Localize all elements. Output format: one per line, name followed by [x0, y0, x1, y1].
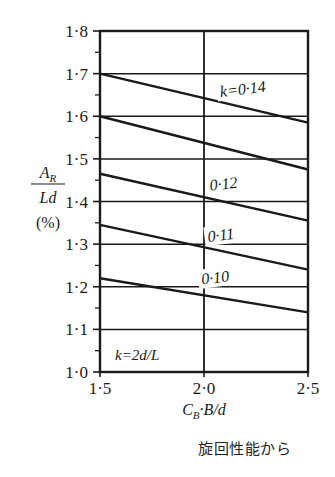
y-tick-label: 1·3	[65, 235, 88, 254]
y-axis-tick-labels: 1·01·11·21·31·41·51·61·71·8	[65, 22, 88, 382]
curve-label-k-0-12: 0·12	[209, 174, 239, 194]
turning-performance-chart: 1·01·11·21·31·41·51·61·71·8 1·52·02·5 k=…	[0, 0, 335, 477]
y-tick-label: 1·1	[65, 320, 88, 339]
x-tick-label: 1·5	[89, 379, 112, 398]
figure-caption: 旋回性能から	[198, 437, 291, 458]
y-tick-label: 1·4	[65, 193, 88, 212]
y-axis-title-numerator-subscript: R	[49, 172, 57, 184]
y-axis-title-numerator: A	[39, 164, 50, 181]
y-tick-label: 1·5	[65, 150, 88, 169]
x-tick-label: 2·5	[297, 379, 320, 398]
y-tick-label: 1·6	[65, 107, 88, 126]
y-axis-title-denominator: Ld	[39, 189, 58, 206]
svg-text:AR: AR	[39, 164, 57, 184]
figure-container: 1·01·11·21·31·41·51·61·71·8 1·52·02·5 k=…	[0, 0, 335, 477]
x-axis-title: CB·B/d	[182, 401, 227, 421]
y-tick-label: 1·8	[65, 22, 88, 41]
x-axis-tick-labels: 1·52·02·5	[89, 379, 320, 398]
x-axis-title-rest: ·B/d	[200, 401, 227, 418]
x-axis-title-c: C	[182, 401, 193, 418]
y-axis-title: AR Ld (%)	[31, 164, 65, 232]
y-axis-unit-label: (%)	[36, 214, 60, 232]
y-tick-label: 1·7	[65, 65, 88, 84]
plot-note-k-definition: k=2d/L	[115, 347, 159, 363]
svg-text:CB·B/d: CB·B/d	[182, 401, 227, 421]
x-tick-label: 2·0	[193, 379, 216, 398]
curve-label-k-0-10: 0·10	[200, 267, 230, 287]
curve-label-k-0-11: 0·11	[206, 225, 235, 245]
y-tick-label: 1·0	[65, 363, 88, 382]
y-tick-label: 1·2	[65, 278, 88, 297]
